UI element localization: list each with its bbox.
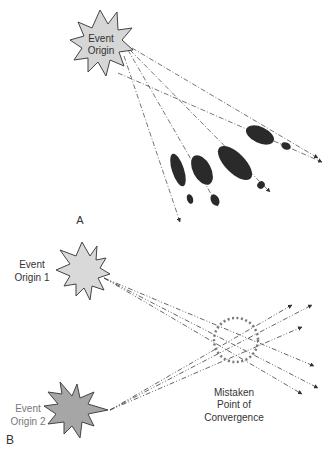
- origin-2-label-line1: Event: [15, 403, 41, 414]
- convergence-label-line2: Point of: [217, 399, 251, 410]
- origin-2-label-line2: Origin 2: [10, 416, 45, 427]
- panel-b: Event Origin 1 Event Origin 2 Mistaken P…: [6, 242, 318, 447]
- panel-a-label: A: [76, 214, 84, 226]
- diagram-canvas: Event Origin A Event Origin 1 Event Orig…: [0, 0, 331, 452]
- origin-1-label-line1: Event: [19, 259, 45, 270]
- origin-label-line1: Event: [88, 33, 114, 44]
- trajectory-lines-origin2: [110, 305, 312, 410]
- convergence-label-line1: Mistaken: [214, 387, 254, 398]
- trajectory-lines-a: [118, 48, 322, 222]
- event-origin-2-starburst: [44, 382, 108, 438]
- convergence-label-line3: Convergence: [204, 412, 264, 423]
- trajectory-lines-origin1: [104, 278, 318, 394]
- impact-blobs: [167, 121, 292, 207]
- event-origin-1-starburst: [56, 242, 110, 300]
- origin-1-label-line2: Origin 1: [14, 272, 49, 283]
- origin-label-line2: Origin: [88, 45, 115, 56]
- panel-b-label: B: [6, 433, 14, 447]
- panel-a: Event Origin A: [70, 10, 322, 226]
